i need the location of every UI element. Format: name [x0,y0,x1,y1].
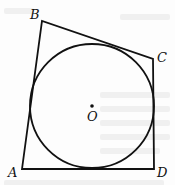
quadrilateral-abcd [22,21,154,169]
vertex-label-b: B [29,7,40,22]
center-label-o: O [87,109,98,124]
quadrilateral-incircle-figure: A B C D O [0,0,175,185]
vertex-label-a: A [7,165,17,180]
diagram-canvas: A B C D O [0,0,175,185]
vertex-label-d: D [156,165,168,180]
center-point-o [90,104,94,108]
vertex-label-c: C [157,50,167,65]
